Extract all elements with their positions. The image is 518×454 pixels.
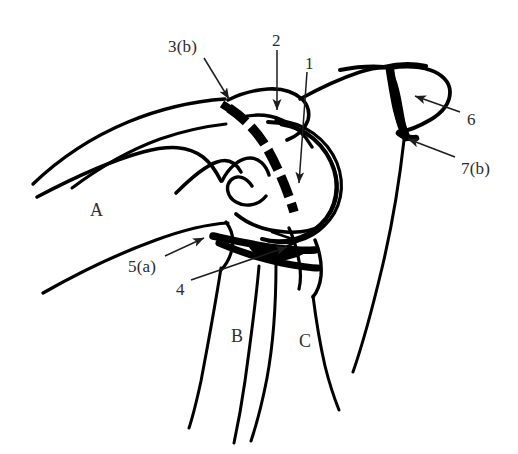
region-label-b: B [231,327,243,345]
shaft-c-medial-line [313,296,339,410]
bone-outlines [33,64,450,443]
callout-label-7b: 7(b) [461,160,490,177]
scapula-upper-border-curve [33,99,225,184]
humerus-shaft-right-line [353,140,404,372]
shaft-b-medial-line [234,266,259,443]
region-label-a: A [90,201,103,219]
callout-label-3b: 3(b) [168,38,197,55]
callout-label-2: 2 [272,32,281,49]
shaft-b-lateral-line [189,268,221,428]
scapula-fossa-ridge [37,148,221,197]
region-label-c: C [299,332,311,350]
leader-6 [415,96,460,112]
leader-7b [408,139,455,157]
callout-label-4: 4 [176,281,185,298]
joint-drawing-canvas [0,0,518,454]
leader-5a [165,238,204,256]
anatomical-figure: 3(b) 2 1 6 7(b) 5(a) 4 A B C [0,0,518,454]
humeral-tubercle-spiral [228,177,266,205]
humeral-head-base-curve [236,214,322,232]
callout-label-6: 6 [467,111,476,128]
capsule-band-upper-stub [222,104,236,113]
callout-label-1: 1 [305,55,314,72]
leader-3b [204,58,229,99]
callout-label-5a: 5(a) [128,258,156,275]
shaft-c-lateral-line [251,264,276,441]
